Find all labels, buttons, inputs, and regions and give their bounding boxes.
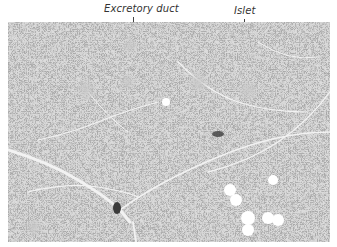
tissue-grain	[8, 22, 330, 242]
islet	[185, 69, 211, 95]
islet	[236, 78, 260, 102]
vacuole	[230, 194, 242, 206]
vacuole	[272, 214, 284, 226]
label-excretory-duct: Excretory duct	[104, 3, 179, 14]
islet	[74, 78, 98, 102]
vacuole	[262, 212, 274, 224]
vacuole	[162, 98, 170, 106]
vessel	[113, 202, 121, 214]
vessel	[212, 131, 224, 137]
islet	[120, 36, 140, 56]
vacuole	[224, 184, 236, 196]
vacuole	[268, 175, 278, 185]
micrograph-image	[8, 22, 330, 242]
islet	[23, 216, 45, 238]
islet	[119, 73, 137, 91]
vacuole	[242, 224, 254, 236]
vacuole	[241, 211, 255, 225]
label-islet: Islet	[234, 5, 256, 16]
